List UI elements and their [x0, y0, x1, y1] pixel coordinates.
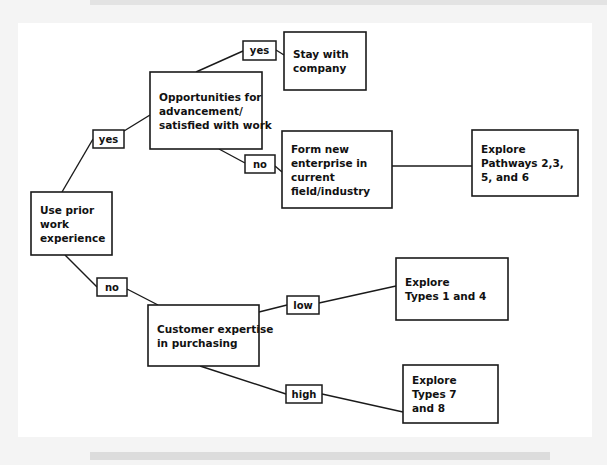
- edge-label-no-form-enterprise[interactable]: no: [245, 155, 275, 173]
- edge-label-text-no-customer-expertise: no: [105, 282, 119, 293]
- edge-label-yes-stay[interactable]: yes: [243, 41, 276, 60]
- node-label-customer-expertise-in-purchasing-line-0: Customer expertise: [157, 323, 273, 335]
- node-form-new-enterprise[interactable]: Form newenterprise incurrentfield/indust…: [282, 131, 392, 208]
- node-label-explore-pathways-line-1: Pathways 2,3,: [481, 157, 564, 169]
- edge-label-text-high-types-7-8: high: [292, 389, 317, 400]
- edge-customer-to-low: [259, 305, 287, 312]
- node-label-explore-pathways-line-0: Explore: [481, 143, 526, 155]
- node-label-stay-with-company-line-0: Stay with: [293, 48, 349, 60]
- edge-opportunities-to-no: [219, 149, 245, 163]
- node-explore-pathways[interactable]: ExplorePathways 2,3,5, and 6: [472, 130, 578, 196]
- node-explore-types-1-and-4[interactable]: ExploreTypes 1 and 4: [396, 258, 508, 320]
- edge-label-text-yes-advancement: yes: [99, 134, 118, 145]
- node-label-customer-expertise-in-purchasing-line-1: in purchasing: [157, 337, 238, 349]
- edge-yes-to-opportunities: [124, 115, 150, 131]
- node-label-form-new-enterprise-line-2: current: [291, 171, 335, 183]
- edge-no-to-form-enterprise: [275, 166, 282, 172]
- edge-label-text-yes-stay: yes: [250, 45, 269, 56]
- edge-yes-to-stay-company: [276, 50, 284, 55]
- node-opportunities-for-advancement[interactable]: Opportunities foradvancement/satisfied w…: [150, 72, 273, 149]
- node-label-explore-types-7-and-8-line-1: Types 7: [412, 388, 457, 400]
- edge-label-text-low-types-1-4: low: [293, 300, 313, 311]
- node-label-use-prior-work-experience-line-2: experience: [40, 232, 105, 244]
- node-label-explore-types-1-and-4-line-1: Types 1 and 4: [405, 290, 486, 302]
- node-label-form-new-enterprise-line-1: enterprise in: [291, 157, 367, 169]
- node-label-use-prior-work-experience-line-1: work: [40, 218, 70, 230]
- connector-lines-group: [62, 50, 472, 412]
- node-label-explore-types-7-and-8-line-0: Explore: [412, 374, 457, 386]
- node-label-form-new-enterprise-line-0: Form new: [291, 143, 349, 155]
- diagram-page: Use priorworkexperienceOpportunities for…: [0, 0, 607, 465]
- edge-customer-to-high: [200, 366, 286, 394]
- edge-label-low-types-1-4[interactable]: low: [287, 296, 319, 314]
- decision-nodes-group: Use priorworkexperienceOpportunities for…: [31, 32, 578, 423]
- node-label-use-prior-work-experience-line-0: Use prior: [40, 204, 95, 216]
- edge-no-to-customer-expertise: [127, 289, 158, 305]
- edge-label-text-no-form-enterprise: no: [253, 159, 267, 170]
- node-label-stay-with-company-line-1: company: [293, 62, 346, 74]
- node-use-prior-work-experience[interactable]: Use priorworkexperience: [31, 192, 112, 255]
- node-label-opportunities-for-advancement-line-0: Opportunities for: [159, 91, 262, 103]
- edge-root-to-no-lower: [65, 255, 97, 287]
- node-box-explore-types-1-and-4: [396, 258, 508, 320]
- node-label-form-new-enterprise-line-3: field/industry: [291, 185, 370, 197]
- node-label-explore-types-7-and-8-line-2: and 8: [412, 402, 445, 414]
- edge-root-to-yes: [62, 139, 93, 192]
- edge-label-high-types-7-8[interactable]: high: [286, 385, 322, 403]
- edge-label-no-customer-expertise[interactable]: no: [97, 278, 127, 296]
- node-customer-expertise-in-purchasing[interactable]: Customer expertisein purchasing: [148, 305, 273, 366]
- node-label-explore-pathways-line-2: 5, and 6: [481, 171, 529, 183]
- edge-high-to-types-7-8: [322, 394, 403, 412]
- node-label-opportunities-for-advancement-line-1: advancement/: [159, 105, 243, 117]
- edge-opportunities-to-yes-stay: [196, 51, 243, 72]
- node-label-explore-types-1-and-4-line-0: Explore: [405, 276, 450, 288]
- node-explore-types-7-and-8[interactable]: ExploreTypes 7and 8: [403, 365, 498, 423]
- node-box-customer-expertise-in-purchasing: [148, 305, 259, 366]
- edge-low-to-types-1-4: [319, 286, 396, 303]
- edge-label-yes-advancement[interactable]: yes: [93, 130, 124, 148]
- node-stay-with-company[interactable]: Stay withcompany: [284, 32, 366, 90]
- decision-tree-diagram: Use priorworkexperienceOpportunities for…: [0, 0, 607, 465]
- node-box-stay-with-company: [284, 32, 366, 90]
- node-label-opportunities-for-advancement-line-2: satisfied with work: [159, 119, 273, 131]
